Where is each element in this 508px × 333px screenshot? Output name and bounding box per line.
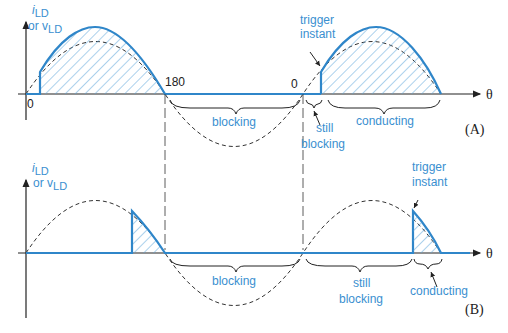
- theta-label-a: θ: [486, 87, 493, 102]
- blocking-label-b: blocking: [212, 274, 256, 288]
- panel-id-b: (B): [465, 302, 484, 318]
- tick-zero-a: 0: [27, 97, 34, 111]
- brace-blocking-a: [170, 100, 300, 114]
- panel-b: iLD or vLD trigger instant blocking stil…: [18, 160, 493, 318]
- trigger-arrow-a: [310, 52, 320, 66]
- panel-a: iLD or vLD 0 180 0 trigger instant block…: [18, 3, 493, 250]
- conducting-label-a: conducting: [356, 114, 414, 128]
- brace-still-blocking-a: [306, 100, 322, 108]
- y-axis-label-or-a: or vLD: [28, 19, 62, 35]
- trigger-label-b: trigger: [412, 160, 446, 174]
- tick-zero-2-a: 0: [291, 77, 298, 91]
- trigger-label-a-2: instant: [300, 27, 336, 41]
- trigger-arrow-b: [414, 200, 418, 208]
- conducting-region-a1: [40, 27, 165, 94]
- trigger-label-b-2: instant: [412, 175, 448, 189]
- blocking-label-a: blocking: [212, 115, 256, 129]
- y-axis-label-or-b: or vLD: [33, 176, 67, 192]
- brace-blocking-b: [170, 259, 300, 272]
- brace-conducting-b: [414, 259, 442, 269]
- still-blocking-label-a-2: blocking: [301, 137, 345, 151]
- theta-label-b: θ: [486, 246, 493, 261]
- scr-firing-delay-diagram: iLD or vLD 0 180 0 trigger instant block…: [0, 0, 508, 333]
- y-axis-label-a: iLD: [32, 3, 49, 19]
- trigger-label-a: trigger: [300, 13, 334, 27]
- conducting-region-b2: [413, 211, 441, 253]
- load-waveform-b: [26, 211, 470, 253]
- still-blocking-label-b: still: [353, 276, 370, 290]
- still-blocking-label-b-2: blocking: [339, 292, 383, 306]
- still-blocking-label-a: still: [316, 121, 333, 135]
- brace-conducting-a: [328, 100, 440, 114]
- tick-180-a: 180: [165, 75, 185, 89]
- brace-still-blocking-b: [306, 259, 412, 272]
- y-axis-label-b: iLD: [32, 161, 49, 177]
- panel-id-a: (A): [465, 122, 485, 138]
- conducting-label-b: conducting: [410, 284, 468, 298]
